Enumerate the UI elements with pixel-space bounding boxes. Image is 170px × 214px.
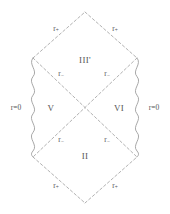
horizon-label-outer-bottom-left: r+ bbox=[53, 182, 59, 191]
penrose-diagram: III' V VI II r+ r+ r− r− r− r− r+ r+ r=0… bbox=[0, 0, 170, 214]
horizon-label-subscript: + bbox=[115, 184, 118, 190]
outer-horizon-bottom-left bbox=[33, 157, 85, 203]
outer-horizon-bottom-right bbox=[85, 157, 137, 203]
horizon-label-subscript: − bbox=[107, 138, 110, 144]
region-label-III-prime: III' bbox=[79, 56, 91, 65]
horizon-label-subscript: + bbox=[115, 27, 118, 33]
penrose-diagram-canvas bbox=[0, 0, 170, 214]
horizon-label-outer-top-right: r+ bbox=[112, 25, 118, 34]
horizon-label-inner-lower-right: r− bbox=[104, 136, 110, 145]
horizon-label-subscript: − bbox=[61, 138, 64, 144]
horizon-label-inner-upper-right: r− bbox=[104, 70, 110, 79]
region-label-VI: VI bbox=[114, 104, 124, 113]
singularity-line-right bbox=[135, 58, 138, 157]
horizon-label-outer-bottom-right: r+ bbox=[112, 182, 118, 191]
outer-horizon-top-right bbox=[85, 12, 137, 58]
horizon-label-outer-top-left: r+ bbox=[53, 25, 59, 34]
region-label-II: II bbox=[82, 152, 89, 161]
singularity-label-right: r=0 bbox=[149, 104, 159, 112]
horizon-label-inner-lower-left: r− bbox=[58, 136, 64, 145]
horizon-label-subscript: + bbox=[56, 184, 59, 190]
horizon-label-subscript: − bbox=[107, 72, 110, 78]
region-label-V: V bbox=[48, 104, 55, 113]
horizon-label-subscript: − bbox=[61, 72, 64, 78]
singularity-line-left bbox=[31, 58, 34, 157]
horizon-label-subscript: + bbox=[56, 27, 59, 33]
horizon-label-inner-upper-left: r− bbox=[58, 70, 64, 79]
outer-horizon-top-left bbox=[33, 12, 85, 58]
singularity-label-left: r=0 bbox=[11, 104, 21, 112]
